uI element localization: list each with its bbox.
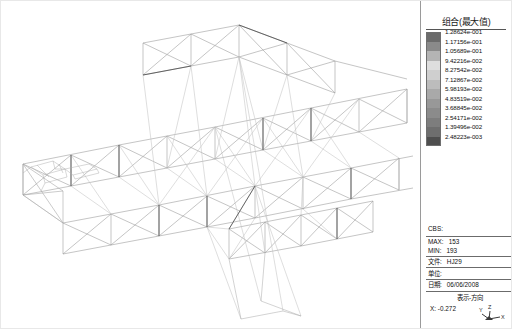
max-value: 153 bbox=[449, 238, 460, 246]
unit-section: 单位: bbox=[426, 267, 512, 279]
min-value: 193 bbox=[447, 247, 458, 255]
orientation-section: 表示-方向 X: -0.272 Y Z bbox=[426, 291, 512, 324]
unit-label: 单位: bbox=[428, 270, 442, 278]
orientation-x: X: -0.272 bbox=[430, 305, 456, 312]
legend-label: 7.12867e-002 bbox=[445, 76, 482, 83]
legend-swatch bbox=[426, 80, 441, 90]
legend-label: 2.48223e-003 bbox=[445, 133, 482, 140]
girder-upper-transverse bbox=[143, 25, 407, 93]
legend-swatch bbox=[426, 32, 441, 42]
legend-swatch bbox=[426, 137, 441, 147]
unit-row: 单位: bbox=[428, 270, 512, 278]
max-row: MAX: 153 bbox=[428, 238, 512, 246]
cbs-row: CBS: bbox=[426, 224, 512, 236]
file-value: HJ29 bbox=[447, 258, 462, 266]
girder-lower-right-outrigger bbox=[229, 201, 373, 259]
highlighted-members bbox=[71, 25, 351, 239]
file-row: 文件: HJ29 bbox=[428, 258, 512, 266]
orientation-row: X: -0.272 Y Z X bbox=[428, 303, 512, 323]
date-row: 日期: 06/06/2008 bbox=[428, 281, 512, 289]
legend-swatch bbox=[426, 70, 441, 80]
side-info-panel: 组合(最大值) 1.28624e-0011.17156e-0011.05689e… bbox=[420, 1, 512, 329]
legend-swatch bbox=[426, 61, 441, 71]
axis-triad-icon[interactable]: Y Z X bbox=[476, 303, 510, 323]
legend-swatch bbox=[426, 118, 441, 128]
legend-swatch bbox=[426, 51, 441, 61]
result-info-table: CBS: MAX: 153 MIN: 193 文件: HJ29 bbox=[426, 224, 512, 324]
legend-label: 1.17156e-001 bbox=[445, 38, 482, 45]
legend-swatch bbox=[426, 108, 441, 118]
axis-label-y: Y bbox=[479, 307, 483, 313]
legend-swatch bbox=[426, 89, 441, 99]
axis-label-z: Z bbox=[488, 304, 492, 310]
legend-swatch bbox=[426, 99, 441, 109]
truss-bridge-wireframe bbox=[1, 1, 420, 329]
min-label: MIN: bbox=[428, 247, 442, 255]
axis-label-x: X bbox=[501, 314, 505, 320]
girder-front-lower bbox=[63, 156, 413, 254]
legend-swatch bbox=[426, 127, 441, 137]
file-label: 文件: bbox=[428, 258, 442, 266]
legend-label: 1.39496e-002 bbox=[445, 124, 482, 131]
mechanical-analysis-window: 组合(最大值) 1.28624e-0011.17156e-0011.05689e… bbox=[0, 0, 512, 329]
file-section: 文件: HJ29 bbox=[426, 256, 512, 268]
legend-label: 2.54171e-002 bbox=[445, 114, 482, 121]
minmax-section: MAX: 153 MIN: 193 bbox=[426, 236, 512, 256]
orientation-title: 表示-方向 bbox=[428, 293, 512, 303]
min-row: MIN: 193 bbox=[428, 247, 512, 255]
cross-bracing bbox=[23, 57, 399, 319]
legend-label: 3.68845e-002 bbox=[445, 105, 482, 112]
cbs-label: CBS: bbox=[428, 225, 443, 233]
date-value: 06/06/2008 bbox=[447, 281, 479, 289]
legend-swatch bbox=[426, 42, 441, 52]
legend-label: 5.98193e-002 bbox=[445, 86, 482, 93]
legend-label: 8.27542e-002 bbox=[445, 67, 482, 74]
girder-rear-upper bbox=[23, 89, 407, 195]
legend-label: 1.05689e-001 bbox=[445, 48, 482, 55]
color-legend: 组合(最大值) 1.28624e-0011.17156e-0011.05689e… bbox=[426, 15, 512, 146]
legend-row: 2.48223e-003 bbox=[426, 137, 512, 147]
legend-scale: 1.28624e-0011.17156e-0011.05689e-0019.42… bbox=[426, 32, 512, 146]
legend-label: 4.83519e-002 bbox=[445, 95, 482, 102]
date-label: 日期: bbox=[428, 281, 442, 289]
orientation-x-value: -0.272 bbox=[438, 305, 456, 312]
end-panel-right bbox=[399, 89, 407, 190]
orientation-x-label: X: bbox=[430, 305, 436, 312]
max-label: MAX: bbox=[428, 238, 444, 246]
model-viewport[interactable] bbox=[1, 1, 420, 329]
legend-label: 1.28624e-001 bbox=[445, 29, 482, 36]
legend-label: 9.42216e-002 bbox=[445, 57, 482, 64]
support-detail-cluster bbox=[23, 161, 99, 191]
date-section: 日期: 06/06/2008 bbox=[426, 279, 512, 291]
